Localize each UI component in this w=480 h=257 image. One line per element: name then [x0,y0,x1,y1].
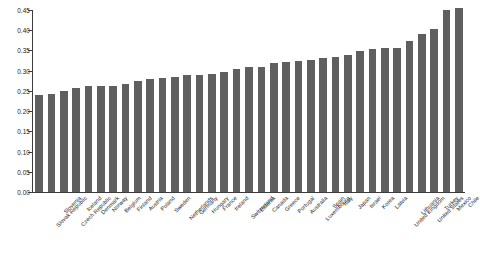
bar [85,86,93,192]
bar [282,62,290,192]
y-tick-mark [28,10,32,11]
bar [196,75,204,192]
bar [295,61,303,192]
bar [258,67,266,192]
bar [35,95,43,192]
y-tick-mark [28,152,32,153]
bar [443,10,451,192]
bar [245,67,253,192]
bar [307,60,315,192]
bar [233,69,241,192]
bar [319,58,327,192]
plot-area [33,10,465,192]
bar [270,63,278,192]
bar [122,84,130,192]
bar [393,48,401,192]
y-tick-mark [28,30,32,31]
bar [171,77,179,192]
y-tick-mark [28,131,32,132]
y-axis: 0.450.400.350.300.250.200.150.100.050.00 [0,0,30,200]
y-tick-mark [28,50,32,51]
bar [406,41,414,192]
bar [381,48,389,192]
bar [48,94,56,192]
bar [332,57,340,192]
bar [109,86,117,192]
x-tick-label: Korea [381,195,396,210]
bar [208,74,216,192]
y-tick-mark [28,71,32,72]
bar [356,51,364,192]
y-tick-mark [28,111,32,112]
bar [344,55,352,192]
bar [134,81,142,192]
y-tick-mark [28,192,32,193]
bar [220,72,228,192]
bar [369,49,377,192]
y-tick-mark [28,172,32,173]
bar [183,75,191,192]
x-tick-label: Latvia [393,195,408,210]
bar [159,78,167,192]
bar [418,34,426,192]
bar [72,88,80,192]
x-axis: Slovak RepublicSloveniaCzech RepublicIce… [33,193,465,257]
bar [97,86,105,192]
bar [146,79,154,192]
y-tick-mark [28,91,32,92]
bar [60,91,68,192]
bar [455,8,463,192]
bar [430,29,438,192]
